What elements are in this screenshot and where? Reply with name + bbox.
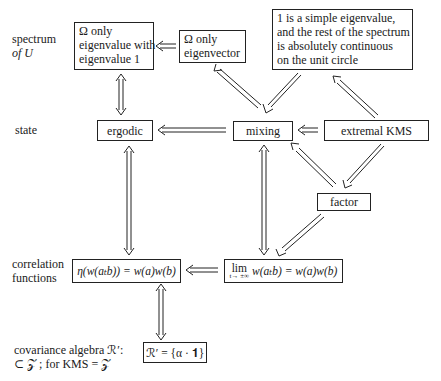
lim-expression: w(aₜb) = w(a)w(b)	[252, 264, 337, 278]
arrow-kms-to-mixing	[298, 125, 318, 135]
box-lim-correlation: lim t→ ±∞ w(aₜb) = w(a)w(b)	[224, 259, 343, 283]
arrow-factor-to-mixing	[291, 143, 336, 187]
arrow-kms-to-simple-eigenvalue	[333, 76, 378, 118]
arrow-eta-covariance-equivalence	[156, 284, 166, 340]
box-text-line: and the rest of the spectrum	[277, 25, 408, 39]
lim-word: lim	[232, 263, 247, 273]
box-ergodic: ergodic	[97, 120, 153, 141]
arrow-ergodic-eta-equivalence	[124, 146, 134, 255]
box-text-line: eigenvector	[184, 46, 241, 60]
box-extremal-kms: extremal KMS	[324, 120, 429, 141]
box-covariance-trivial: ℛ′ = {α · 𝟏}	[143, 342, 207, 363]
box-text-line: eigenvalue 1	[79, 52, 149, 66]
arrow-simple-eigenvalue-to-mixing	[263, 73, 301, 113]
box-factor: factor	[317, 193, 371, 211]
box-text-line: is absolutely continuous	[277, 39, 408, 53]
lim-operator: lim t→ ±∞	[230, 263, 250, 280]
box-mixing: mixing	[233, 121, 293, 141]
arrow-eigenvalue-ergodic-equivalence	[116, 74, 126, 115]
arrow-lim-to-eta	[186, 265, 218, 275]
box-text-line: 1 is a simple eigenvalue,	[277, 11, 408, 25]
arrow-kms-to-factor	[343, 144, 384, 188]
arrow-mixing-lim-equivalence	[259, 145, 269, 255]
box-text-line: Ω only	[79, 24, 149, 38]
box-omega-only-eigenvector: Ω only eigenvector	[179, 30, 246, 63]
arrow-factor-to-lim	[276, 214, 324, 256]
box-text-line: eigenvalue with	[79, 38, 149, 52]
box-text-line: on the unit circle	[277, 53, 408, 67]
arrow-mixing-to-eigenvector	[214, 64, 261, 108]
arrow-eigenvector-to-eigenvalue	[156, 41, 176, 51]
box-eta-correlation: η(w(aₜb)) = w(a)w(b)	[72, 259, 181, 283]
box-text-line: Ω only	[184, 32, 241, 46]
box-omega-only-eigenvalue: Ω only eigenvalue with eigenvalue 1	[74, 22, 154, 70]
box-simple-eigenvalue: 1 is a simple eigenvalue, and the rest o…	[272, 9, 413, 70]
arrow-mixing-to-ergodic	[158, 125, 226, 135]
lim-subscript: t→ ±∞	[230, 273, 250, 280]
